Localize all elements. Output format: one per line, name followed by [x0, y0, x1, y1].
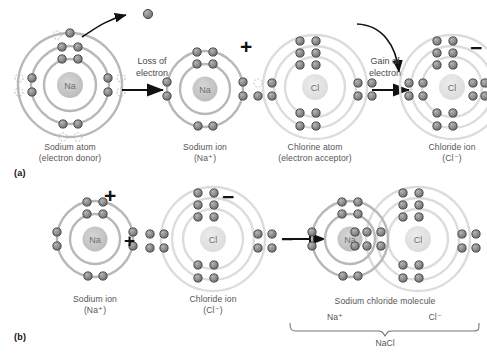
figure-canvas: Na: [0, 0, 487, 362]
sodium-ion-charge-b: +: [104, 185, 116, 206]
shared-electron: [377, 242, 385, 250]
bracket-label-cl: Cl⁻: [400, 312, 470, 322]
sodium-ion-caption-a-l2: (Na⁺): [194, 153, 216, 163]
sodium-atom-caption-l2: (electron donor): [39, 153, 101, 163]
escaping-electron-arrow: [82, 9, 153, 37]
shared-electron: [363, 228, 371, 236]
nacl-bracket: [290, 323, 479, 336]
sodium-ion-caption-b-l1: Sodium ion: [73, 294, 117, 304]
bracket-label-nacl: NaCl: [350, 338, 420, 348]
sodium-atom-group: Na: [15, 29, 125, 141]
shared-electron: [377, 228, 385, 236]
shared-electron: [351, 228, 359, 236]
loss-of-electron-label: Loss of electron: [124, 55, 180, 79]
plus-operator: +: [124, 231, 135, 250]
sodium-ion-caption-a-l1: Sodium ion: [183, 142, 227, 152]
chlorine-atom-group: Cl: [254, 35, 376, 139]
chloride-ion-caption-a-l1: Chloride ion: [428, 142, 475, 152]
svg-text:Na: Na: [89, 235, 101, 245]
chloride-trailing-minus: −: [281, 228, 293, 249]
chloride-ion-caption-b: Chloride ion (Cl⁻): [160, 294, 266, 316]
chloride-ion-caption-a: Chloride ion (Cl⁻): [400, 142, 487, 164]
sodium-ion-caption-b-l2: (Na⁺): [84, 305, 106, 315]
loss-line1: Loss of: [137, 56, 166, 66]
chloride-ion-group-b: Cl: [146, 187, 276, 291]
svg-text:Na: Na: [199, 85, 211, 95]
sodium-atom-caption-l1: Sodium atom: [44, 142, 96, 152]
sodium-ion-charge-a: +: [240, 36, 252, 57]
gain-line1: Gain of: [370, 56, 399, 66]
bracket-label-na: Na⁺: [300, 312, 370, 322]
svg-text:Cl: Cl: [209, 235, 218, 245]
gain-of-electron-label: Gain of electron: [357, 55, 413, 79]
molecule-caption: Sodium chloride molecule: [310, 296, 460, 307]
chloride-ion-caption-b-l2: (Cl⁻): [203, 305, 222, 315]
electron-vacancy: [254, 79, 262, 87]
sodium-ion-caption-b: Sodium ion (Na⁺): [42, 294, 148, 316]
svg-text:Cl: Cl: [311, 83, 320, 93]
chlorine-atom-caption-l2: (electron acceptor): [278, 153, 352, 163]
chlorine-atom-caption-l1: Chlorine atom: [288, 142, 343, 152]
chloride-ion-charge-b: −: [222, 186, 234, 207]
nacl-molecule-group: Cl Na: [308, 187, 480, 291]
panel-tag-a: (a): [14, 168, 26, 178]
chloride-ion-caption-a-l2: (Cl⁻): [442, 153, 461, 163]
sodium-ion-caption-a: Sodium ion (Na⁺): [152, 142, 258, 164]
free-electron: [143, 9, 152, 18]
svg-text:Cl: Cl: [414, 235, 423, 245]
svg-text:Cl: Cl: [448, 83, 457, 93]
shared-electron: [363, 242, 371, 250]
sodium-atom-caption: Sodium atom (electron donor): [10, 142, 130, 164]
gain-line2: electron: [369, 68, 401, 78]
chloride-ion-charge-a: −: [470, 37, 482, 58]
chloride-ion-caption-b-l1: Chloride ion: [189, 294, 236, 304]
panel-tag-b: (b): [14, 332, 26, 342]
shared-electron: [351, 242, 359, 250]
loss-line2: electron: [136, 68, 168, 78]
svg-text:Na: Na: [64, 81, 76, 91]
chlorine-atom-caption: Chlorine atom (electron acceptor): [250, 142, 380, 164]
